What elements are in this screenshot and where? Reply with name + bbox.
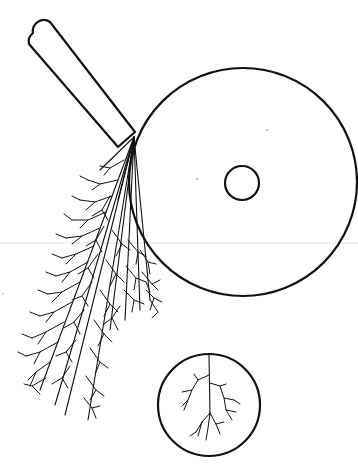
center-hole xyxy=(225,166,259,200)
speck xyxy=(2,293,4,295)
inset-circle-group xyxy=(158,354,260,456)
inset-dendrite xyxy=(182,355,240,440)
large-disc xyxy=(129,68,357,296)
diagram-canvas: Line drawing: a large disc with a small … xyxy=(0,0,358,476)
handle xyxy=(29,20,135,147)
dendritic-fan xyxy=(18,137,162,420)
diagram-svg xyxy=(0,0,358,476)
speck xyxy=(266,129,268,131)
speck xyxy=(196,178,198,180)
